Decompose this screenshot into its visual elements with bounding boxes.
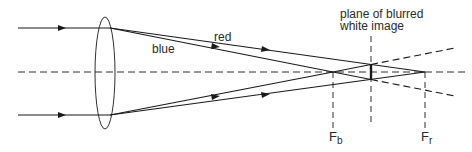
- blue-ray-bottom-extension: [371, 48, 455, 65]
- blue-ray-bottom-continued: [333, 65, 371, 73]
- blue-ray-bottom: [110, 72, 333, 115]
- fb-label: Fb: [329, 129, 343, 146]
- blue-ray-top-continued: [333, 72, 371, 80]
- blue-label: blue: [152, 42, 175, 56]
- convex-lens: [95, 17, 115, 129]
- fr-label-sub: r: [429, 135, 433, 146]
- plane-label-line2: white image: [339, 19, 404, 33]
- arrow-icon: [261, 46, 270, 52]
- red-label: red: [214, 30, 231, 44]
- fb-label-sub: b: [337, 135, 343, 146]
- arrow-icon: [58, 112, 66, 118]
- chromatic-aberration-diagram: red blue plane of blurred white image Fb…: [0, 0, 472, 152]
- fr-label: Fr: [421, 129, 433, 146]
- fr-label-main: F: [421, 129, 429, 144]
- blue-ray-top-extension: [371, 80, 455, 97]
- arrow-icon: [58, 25, 66, 31]
- fb-label-main: F: [329, 129, 337, 144]
